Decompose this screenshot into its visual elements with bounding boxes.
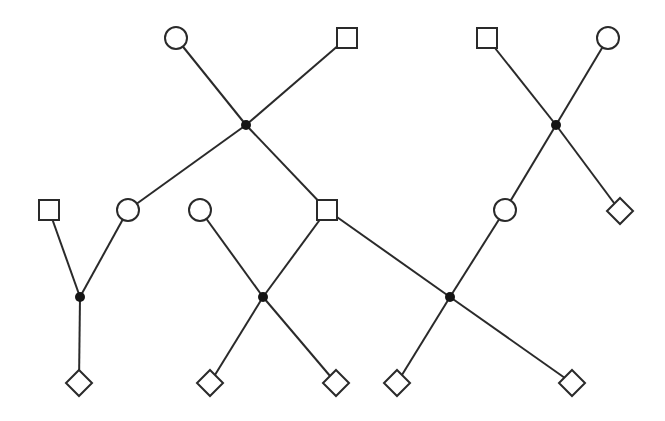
edge-s1-h1 (246, 38, 347, 125)
hub-dot-icon (75, 292, 85, 302)
circle-node-icon (494, 199, 516, 221)
diamond-node-icon (66, 370, 92, 396)
diamond-node-icon (607, 198, 633, 224)
hub-dot-icon (551, 120, 561, 130)
hub-dot-icon (258, 292, 268, 302)
square-node-icon (39, 200, 59, 220)
edge-s4-h4 (263, 210, 327, 297)
edge-h2-c5 (505, 125, 556, 210)
circle-node-icon (117, 199, 139, 221)
edge-c1-h1 (176, 38, 246, 125)
edge-s3-h3 (49, 210, 80, 297)
edge-c4-h4 (200, 210, 263, 297)
edge-c3-h3 (80, 210, 128, 297)
graph-svg (0, 0, 665, 421)
diamond-node-icon (559, 370, 585, 396)
square-node-icon (317, 200, 337, 220)
edge-h5-d5 (397, 297, 450, 383)
square-node-icon (477, 28, 497, 48)
edge-c5-h5 (450, 210, 505, 297)
diamond-node-icon (197, 370, 223, 396)
hub-dot-icon (445, 292, 455, 302)
edge-h5-d6 (450, 297, 572, 383)
edge-h1-c3 (128, 125, 246, 210)
diagram-canvas (0, 0, 665, 421)
edge-s2-h2 (487, 38, 556, 125)
edge-h1-s4 (246, 125, 327, 210)
hub-dot-icon (241, 120, 251, 130)
edge-h4-d3 (210, 297, 263, 383)
diamond-node-icon (323, 370, 349, 396)
circle-node-icon (165, 27, 187, 49)
circle-node-icon (189, 199, 211, 221)
edge-h2-d1 (556, 125, 620, 211)
edge-s4-h5 (327, 210, 450, 297)
circle-node-icon (597, 27, 619, 49)
edge-c2-h2 (556, 38, 608, 125)
diamond-node-icon (384, 370, 410, 396)
square-node-icon (337, 28, 357, 48)
edge-h4-d4 (263, 297, 336, 383)
nodes-layer (39, 27, 633, 396)
